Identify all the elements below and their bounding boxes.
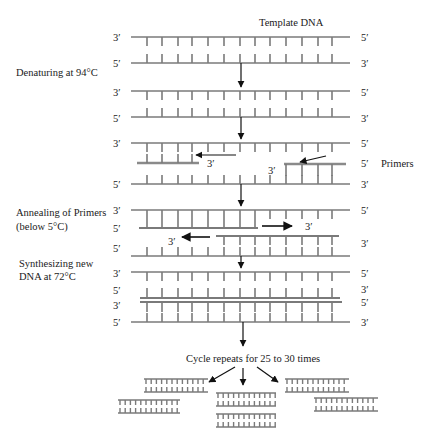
end-3prime: 3′ bbox=[361, 238, 369, 249]
end-3prime: 3′ bbox=[361, 58, 369, 69]
end-5prime: 5′ bbox=[361, 32, 369, 43]
end-3prime: 3′ bbox=[361, 284, 369, 295]
pcr-diagram: Template DNA Denaturing at 94°C Annealin… bbox=[0, 0, 430, 436]
end-3prime: 3′ bbox=[168, 236, 176, 247]
step-annealing-label-1: Annealing of Primers bbox=[16, 207, 106, 218]
end-3prime: 3′ bbox=[113, 32, 121, 43]
end-3prime: 3′ bbox=[361, 113, 369, 124]
step-synth-label-1: Synthesizing new bbox=[19, 258, 94, 269]
end-5prime: 5′ bbox=[113, 243, 121, 254]
end-3prime: 3′ bbox=[361, 179, 369, 190]
end-5prime: 5′ bbox=[113, 113, 121, 124]
end-5prime: 5′ bbox=[361, 158, 369, 169]
pcr-products bbox=[118, 379, 378, 427]
step-annealing-label-2: (below 5°C) bbox=[16, 221, 68, 233]
step-synth-label-2: DNA at 72°C bbox=[19, 271, 76, 282]
primers-label: Primers bbox=[381, 158, 414, 169]
template-dna-title: Template DNA bbox=[259, 17, 324, 28]
end-3prime: 3′ bbox=[113, 300, 121, 311]
end-3prime: 3′ bbox=[113, 87, 121, 98]
end-5prime: 5′ bbox=[361, 138, 369, 149]
end-5prime: 5′ bbox=[113, 58, 121, 69]
end-3prime: 3′ bbox=[113, 205, 121, 216]
end-5prime: 5′ bbox=[113, 317, 121, 328]
end-5prime: 5′ bbox=[113, 285, 121, 296]
cycle-label: Cycle repeats for 25 to 30 times bbox=[186, 353, 320, 364]
step-denaturing-label: Denaturing at 94°C bbox=[16, 67, 98, 78]
end-5prime: 5′ bbox=[113, 223, 121, 234]
end-5prime: 5′ bbox=[361, 87, 369, 98]
end-3prime: 3′ bbox=[113, 268, 121, 279]
end-3prime: 3′ bbox=[361, 317, 369, 328]
end-3prime: 3′ bbox=[113, 138, 121, 149]
end-3prime: 3′ bbox=[305, 221, 313, 232]
end-5prime: 5′ bbox=[361, 205, 369, 216]
end-3prime: 3′ bbox=[207, 158, 215, 169]
end-3prime: 3′ bbox=[268, 165, 276, 176]
end-5prime: 5′ bbox=[361, 297, 369, 308]
end-5prime: 5′ bbox=[113, 179, 121, 190]
end-5prime: 5′ bbox=[361, 268, 369, 279]
